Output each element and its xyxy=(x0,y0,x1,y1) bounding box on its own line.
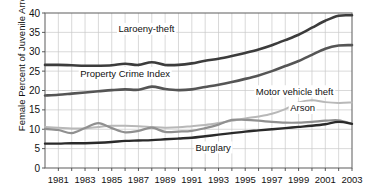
x-axis-tick-label: 1987 xyxy=(128,174,149,185)
y-axis-tick-label: 5 xyxy=(34,143,40,154)
x-axis-tick-label: 1993 xyxy=(208,174,229,185)
y-axis-tick-label: 10 xyxy=(29,124,41,135)
series-label-arson: Arson xyxy=(289,102,317,114)
series-label-motor-vehicle-theft: Motor vehicle theft xyxy=(254,85,335,97)
y-axis-tick-label: 0 xyxy=(34,163,40,174)
x-axis-tick-label: 1997 xyxy=(261,174,282,185)
x-axis-tick-label: 1985 xyxy=(101,174,122,185)
y-axis-tick-label: 15 xyxy=(29,104,41,115)
chart-container: Female Percent of Juvenile Arrests 05101… xyxy=(0,0,371,194)
svg-text:Property Crime Index: Property Crime Index xyxy=(80,68,170,79)
x-axis-tick-label: 2001 xyxy=(315,174,336,185)
svg-text:Laroeny-theft: Laroeny-theft xyxy=(118,23,174,34)
svg-text:Arson: Arson xyxy=(290,102,315,113)
x-axis-tick-label: 1991 xyxy=(181,174,202,185)
y-axis-tick-label: 35 xyxy=(29,27,41,38)
x-axis-tick-label: 2003 xyxy=(341,174,362,185)
x-axis-tick-label: 1983 xyxy=(74,174,95,185)
svg-text:Burglary: Burglary xyxy=(195,142,231,153)
x-axis-tick-label: 1981 xyxy=(48,174,69,185)
x-axis-tick-label: 1995 xyxy=(235,174,256,185)
y-axis-tick-label: 25 xyxy=(29,66,41,77)
x-axis-tick-label: 1999 xyxy=(288,174,309,185)
y-axis-tick-label: 40 xyxy=(29,8,41,19)
series-label-laroeny-theft: Laroeny-theft xyxy=(117,23,176,35)
svg-text:Motor vehicle theft: Motor vehicle theft xyxy=(256,86,334,97)
y-axis-tick-label: 30 xyxy=(29,46,41,57)
series-label-property-crime-index: Property Crime Index xyxy=(79,67,172,79)
x-axis-tick-label: 1989 xyxy=(155,174,176,185)
line-chart-plot: 0510152025303540198119831985198719891991… xyxy=(0,0,371,194)
series-label-burglary: Burglary xyxy=(194,141,233,153)
y-axis-tick-label: 20 xyxy=(29,85,41,96)
